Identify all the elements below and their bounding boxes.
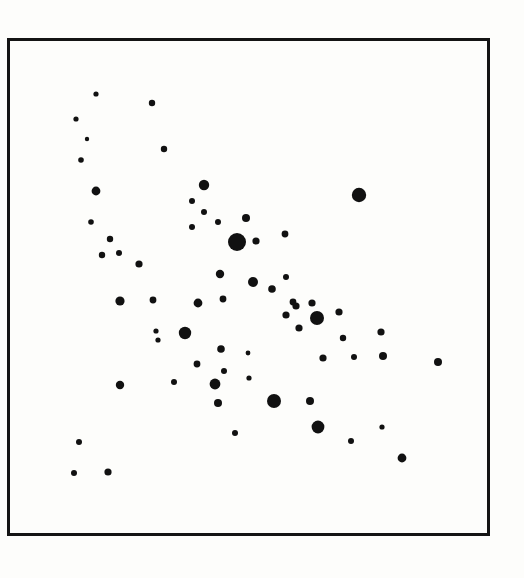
scatter-point — [246, 375, 251, 380]
plot-frame-border — [9, 40, 489, 535]
scatter-point — [107, 236, 113, 242]
scatter-point — [434, 358, 442, 366]
scatter-plot-canvas — [0, 0, 524, 578]
scatter-point — [116, 381, 124, 389]
scatter-point — [214, 399, 222, 407]
scatter-point — [306, 397, 314, 405]
scatter-point — [149, 100, 155, 106]
scatter-point — [398, 454, 407, 463]
scatter-point — [215, 219, 221, 225]
scatter-point — [220, 296, 227, 303]
scatter-point — [335, 308, 342, 315]
scatter-point — [210, 379, 221, 390]
scatter-point — [115, 296, 124, 305]
scatter-point — [310, 311, 324, 325]
scatter-point — [319, 354, 326, 361]
scatter-point — [217, 345, 225, 353]
scatter-point — [199, 180, 209, 190]
scatter-point — [71, 470, 77, 476]
scatter-point — [351, 354, 357, 360]
scatter-point — [252, 237, 259, 244]
scatter-point — [283, 274, 289, 280]
scatter-point — [312, 421, 325, 434]
scatter-point — [135, 260, 142, 267]
scatter-point — [295, 324, 302, 331]
scatter-point — [93, 91, 98, 96]
scatter-point — [78, 157, 84, 163]
scatter-point — [248, 277, 258, 287]
scatter-point — [179, 327, 191, 339]
scatter-point — [379, 352, 387, 360]
scatter-point — [340, 335, 346, 341]
scatter-point — [282, 231, 289, 238]
scatter-point — [189, 224, 195, 230]
scatter-point — [104, 468, 111, 475]
scatter-point — [377, 328, 384, 335]
scatter-point — [348, 438, 354, 444]
scatter-point — [308, 299, 315, 306]
scatter-point — [268, 285, 276, 293]
scatter-point — [221, 368, 227, 374]
scatter-point — [153, 328, 158, 333]
scatter-point — [242, 214, 250, 222]
scatter-point — [352, 188, 366, 202]
scatter-point — [150, 297, 157, 304]
scatter-point — [99, 252, 105, 258]
scatter-point — [171, 379, 177, 385]
scatter-point — [92, 187, 101, 196]
scatter-point — [216, 270, 224, 278]
scatter-point — [379, 424, 384, 429]
scatter-point — [228, 233, 246, 251]
scatter-point — [282, 311, 289, 318]
scatter-point — [189, 198, 195, 204]
scatter-point — [194, 299, 203, 308]
scatter-point — [155, 337, 160, 342]
scatter-point — [116, 250, 122, 256]
scatter-point — [194, 361, 201, 368]
scatter-point — [161, 146, 167, 152]
scatter-point — [76, 439, 82, 445]
scatter-point — [201, 209, 207, 215]
scatter-point — [246, 351, 251, 356]
scatter-points-group — [71, 91, 442, 476]
figure-root — [0, 0, 524, 578]
scatter-point — [73, 116, 78, 121]
scatter-point — [292, 302, 299, 309]
scatter-point — [267, 394, 281, 408]
scatter-point — [232, 430, 238, 436]
scatter-point — [88, 219, 94, 225]
scatter-point — [85, 137, 89, 141]
